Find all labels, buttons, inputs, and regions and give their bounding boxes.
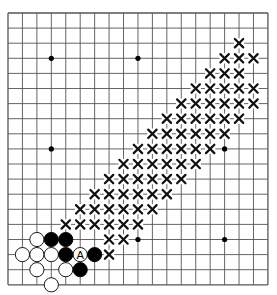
- x-mark-icon: [176, 129, 186, 139]
- x-mark-icon: [147, 189, 157, 199]
- x-mark-icon: [191, 83, 201, 93]
- stone-label: A: [76, 249, 84, 262]
- white-stone: [44, 278, 58, 292]
- x-mark-icon: [205, 144, 215, 154]
- x-mark-icon: [205, 83, 215, 93]
- black-stone: [59, 232, 73, 246]
- x-mark-icon: [176, 98, 186, 108]
- x-mark-icon: [234, 98, 244, 108]
- star-point-icon: [222, 146, 227, 151]
- x-mark-icon: [219, 98, 229, 108]
- x-mark-icon: [104, 189, 114, 199]
- star-point-icon: [49, 146, 54, 151]
- white-stone: [30, 248, 44, 262]
- x-mark-icon: [176, 144, 186, 154]
- x-mark-icon: [133, 189, 143, 199]
- white-stone: [30, 232, 44, 246]
- x-mark-icon: [191, 144, 201, 154]
- x-mark-icon: [219, 129, 229, 139]
- x-mark-icon: [234, 114, 244, 124]
- x-mark-icon: [248, 83, 258, 93]
- x-mark-icon: [219, 114, 229, 124]
- x-mark-icon: [219, 68, 229, 78]
- star-point-icon: [135, 56, 140, 61]
- stones: [15, 232, 101, 292]
- x-mark-icon: [104, 174, 114, 184]
- x-mark-icon: [147, 204, 157, 214]
- x-mark-icon: [234, 83, 244, 93]
- x-mark-icon: [191, 98, 201, 108]
- x-mark-icon: [205, 98, 215, 108]
- x-mark-icon: [89, 219, 99, 229]
- x-mark-icon: [162, 174, 172, 184]
- x-mark-icon: [133, 159, 143, 169]
- x-mark-icon: [162, 144, 172, 154]
- x-mark-icon: [176, 159, 186, 169]
- x-mark-icon: [118, 234, 128, 244]
- x-mark-icon: [89, 204, 99, 214]
- black-stone: [44, 232, 58, 246]
- white-stone: [30, 263, 44, 277]
- x-mark-icon: [133, 204, 143, 214]
- x-mark-icon: [147, 129, 157, 139]
- x-mark-icon: [234, 53, 244, 63]
- x-mark-icon: [248, 98, 258, 108]
- white-stone: [15, 248, 29, 262]
- x-mark-icon: [205, 68, 215, 78]
- x-mark-icon: [133, 174, 143, 184]
- x-mark-icon: [162, 159, 172, 169]
- x-mark-icon: [147, 159, 157, 169]
- x-mark-icon: [133, 144, 143, 154]
- x-mark-icon: [162, 129, 172, 139]
- x-mark-icon: [89, 189, 99, 199]
- x-mark-icon: [118, 174, 128, 184]
- x-mark-icon: [147, 174, 157, 184]
- x-mark-icon: [219, 83, 229, 93]
- x-mark-icon: [118, 204, 128, 214]
- x-mark-icon: [162, 114, 172, 124]
- go-board: A: [0, 0, 277, 295]
- x-mark-icon: [104, 249, 114, 259]
- x-mark-icon: [234, 68, 244, 78]
- x-mark-icon: [118, 219, 128, 229]
- x-mark-icon: [147, 144, 157, 154]
- x-mark-icon: [118, 159, 128, 169]
- x-mark-icon: [205, 129, 215, 139]
- white-stone: [59, 263, 73, 277]
- x-mark-icon: [133, 219, 143, 229]
- x-mark-icon: [176, 114, 186, 124]
- black-stone: [73, 263, 87, 277]
- x-mark-icon: [205, 114, 215, 124]
- x-mark-icon: [104, 234, 114, 244]
- x-mark-icon: [191, 129, 201, 139]
- black-stone: [59, 248, 73, 262]
- x-mark-icon: [104, 204, 114, 214]
- star-point-icon: [49, 56, 54, 61]
- x-mark-icon: [118, 189, 128, 199]
- x-mark-icon: [104, 219, 114, 229]
- x-mark-icon: [162, 189, 172, 199]
- x-mark-icon: [219, 53, 229, 63]
- x-mark-icon: [191, 114, 201, 124]
- white-stone: [44, 248, 58, 262]
- star-point-icon: [222, 237, 227, 242]
- x-mark-icon: [191, 159, 201, 169]
- x-mark-icon: [176, 174, 186, 184]
- x-mark-icon: [61, 219, 71, 229]
- stone-labels: A: [76, 249, 84, 262]
- x-mark-icon: [75, 219, 85, 229]
- star-point-icon: [135, 237, 140, 242]
- x-mark-icon: [75, 204, 85, 214]
- x-mark-icon: [248, 53, 258, 63]
- x-mark-icon: [234, 38, 244, 48]
- black-stone: [88, 248, 102, 262]
